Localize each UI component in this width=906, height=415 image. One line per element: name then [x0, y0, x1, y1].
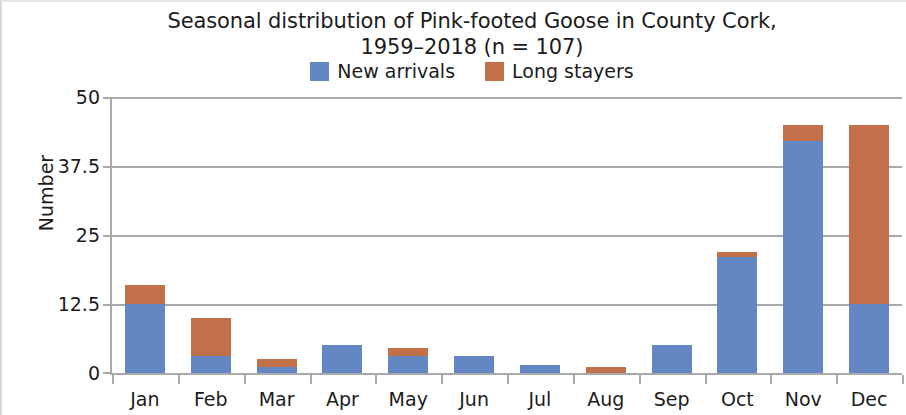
- bar-segment-jun-new-arrivals[interactable]: [454, 356, 494, 373]
- bar-segment-nov-long-stayers[interactable]: [783, 125, 823, 142]
- x-tick-label-dec: Dec: [837, 388, 901, 410]
- y-tick-mark-12-5: [103, 304, 112, 306]
- x-tick-mark-6: [507, 375, 509, 384]
- bar-segment-sep-new-arrivals[interactable]: [652, 345, 692, 373]
- y-tick-mark-37-5: [103, 166, 112, 168]
- legend-swatch-long-stayers-icon: [485, 62, 504, 81]
- bar-segment-jan-new-arrivals[interactable]: [125, 304, 165, 373]
- x-tick-label-jan: Jan: [113, 388, 177, 410]
- y-tick-mark-50: [103, 97, 112, 99]
- x-axis-line: [110, 373, 902, 375]
- x-tick-mark-1: [178, 375, 180, 384]
- chart-title-line-1: Seasonal distribution of Pink-footed Goo…: [122, 8, 822, 34]
- bar-segment-jan-long-stayers[interactable]: [125, 285, 165, 304]
- legend-item-long-stayers: Long stayers: [485, 62, 634, 81]
- bar-segment-jul-new-arrivals[interactable]: [520, 365, 560, 373]
- bar-segment-mar-long-stayers[interactable]: [257, 359, 297, 367]
- bar-segment-apr-new-arrivals[interactable]: [322, 345, 362, 373]
- y-tick-label-0: 0: [22, 364, 100, 383]
- x-tick-mark-11: [836, 375, 838, 384]
- x-tick-label-aug: Aug: [574, 388, 638, 410]
- x-tick-mark-8: [639, 375, 641, 384]
- legend-swatch-new-arrivals-icon: [310, 62, 329, 81]
- bar-segment-oct-new-arrivals[interactable]: [717, 257, 757, 373]
- gridline-50: [112, 97, 902, 99]
- x-tick-label-oct: Oct: [705, 388, 769, 410]
- bar-segment-nov-new-arrivals[interactable]: [783, 141, 823, 373]
- x-tick-label-jun: Jun: [442, 388, 506, 410]
- bar-segment-feb-new-arrivals[interactable]: [191, 356, 231, 373]
- bar-segment-oct-long-stayers[interactable]: [717, 252, 757, 258]
- x-tick-label-may: May: [376, 388, 440, 410]
- x-tick-mark-9: [705, 375, 707, 384]
- chart-legend: New arrivals Long stayers: [122, 62, 822, 81]
- bar-segment-dec-new-arrivals[interactable]: [849, 304, 889, 373]
- bar-segment-dec-long-stayers[interactable]: [849, 125, 889, 304]
- x-tick-mark-5: [441, 375, 443, 384]
- x-tick-mark-0: [112, 375, 114, 384]
- x-tick-label-sep: Sep: [640, 388, 704, 410]
- x-tick-mark-4: [375, 375, 377, 384]
- x-tick-label-nov: Nov: [771, 388, 835, 410]
- bar-segment-may-new-arrivals[interactable]: [388, 356, 428, 373]
- chart-figure: Seasonal distribution of Pink-footed Goo…: [0, 0, 906, 415]
- x-tick-mark-2: [244, 375, 246, 384]
- chart-title-line-2: 1959–2018 (n = 107): [122, 34, 822, 60]
- y-tick-mark-25: [103, 235, 112, 237]
- x-tick-label-mar: Mar: [245, 388, 309, 410]
- y-tick-label-37-5: 37.5: [22, 157, 100, 176]
- legend-item-new-arrivals: New arrivals: [310, 62, 455, 81]
- x-tick-label-apr: Apr: [310, 388, 374, 410]
- x-tick-mark-10: [770, 375, 772, 384]
- x-tick-mark-3: [310, 375, 312, 384]
- y-tick-label-25: 25: [22, 226, 100, 245]
- y-tick-label-12-5: 12.5: [22, 295, 100, 314]
- x-tick-label-feb: Feb: [179, 388, 243, 410]
- x-tick-mark-12: [902, 375, 904, 384]
- y-tick-label-50: 50: [22, 88, 100, 107]
- plot-area: [112, 97, 902, 373]
- x-tick-label-jul: Jul: [508, 388, 572, 410]
- chart-title: Seasonal distribution of Pink-footed Goo…: [122, 8, 822, 60]
- bar-segment-feb-long-stayers[interactable]: [191, 318, 231, 357]
- x-tick-mark-7: [573, 375, 575, 384]
- bar-segment-may-long-stayers[interactable]: [388, 348, 428, 356]
- legend-label-new-arrivals: New arrivals: [337, 62, 455, 81]
- legend-label-long-stayers: Long stayers: [512, 62, 634, 81]
